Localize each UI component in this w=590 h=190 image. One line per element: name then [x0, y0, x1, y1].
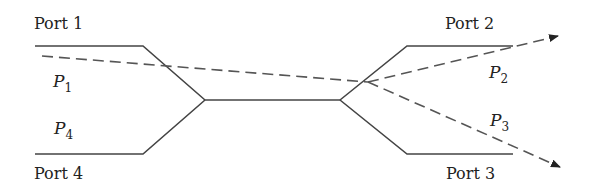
input-power-path [42, 56, 368, 82]
waveguide-arm-port3 [340, 100, 513, 154]
power-p2-label: P2 [488, 62, 508, 86]
waveguide [35, 46, 513, 154]
port2-label: Port 2 [445, 14, 494, 33]
port4-label: Port 4 [34, 164, 83, 183]
power-flow [42, 36, 560, 167]
port3-label: Port 3 [446, 164, 495, 183]
power-p4-label: P4 [53, 118, 73, 142]
port1-label: Port 1 [34, 14, 83, 33]
waveguide-arm-port2 [340, 46, 513, 100]
directional-coupler-diagram: Port 1 Port 2 Port 3 Port 4 P1 P4 P2 P3 [0, 0, 590, 190]
through-power-arrow [368, 36, 558, 82]
power-p1-label: P1 [52, 71, 72, 95]
power-p3-label: P3 [489, 110, 509, 134]
